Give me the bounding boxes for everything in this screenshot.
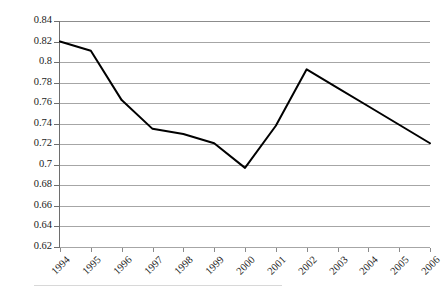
y-tick-label: 0.8 (0, 56, 52, 67)
gridline-y-0.8 (60, 62, 430, 63)
gridline-y-0.84 (60, 21, 430, 22)
scan-artifact-line (34, 285, 282, 286)
plot-area (60, 21, 430, 247)
gridline-y-0.74 (60, 124, 430, 125)
gridline-y-0.78 (60, 83, 430, 84)
x-tick-mark (91, 248, 92, 252)
gridline-y-0.68 (60, 185, 430, 186)
x-tick-mark (153, 248, 154, 252)
x-tick-mark (276, 248, 277, 252)
y-tick-label: 0.74 (0, 118, 52, 129)
gridline-y-0.66 (60, 206, 430, 207)
x-tick-mark (399, 248, 400, 252)
y-tick-label: 0.82 (0, 36, 52, 47)
y-tick-label: 0.68 (0, 179, 52, 190)
y-tick-label: 0.78 (0, 77, 52, 88)
y-tick-label: 0.72 (0, 138, 52, 149)
gridline-y-0.7 (60, 165, 430, 166)
x-tick-mark (122, 248, 123, 252)
x-tick-label: 2001 (259, 254, 288, 283)
x-tick-mark (245, 248, 246, 252)
gridline-y-0.64 (60, 226, 430, 227)
x-tick-mark (307, 248, 308, 252)
x-tick-label: 2003 (320, 254, 349, 283)
y-tick-label: 0.62 (0, 241, 52, 252)
gridline-y-0.76 (60, 103, 430, 104)
y-tick-label: 0.64 (0, 220, 52, 231)
y-tick-label: 0.7 (0, 159, 52, 170)
line-chart: 0.840.820.80.780.760.740.720.70.680.660.… (0, 0, 441, 291)
x-tick-mark (338, 248, 339, 252)
y-tick-label: 0.66 (0, 200, 52, 211)
x-tick-mark (183, 248, 184, 252)
x-tick-mark (60, 248, 61, 252)
x-tick-label: 2006 (413, 254, 441, 283)
x-tick-label: 2005 (382, 254, 411, 283)
gridline-y-0.72 (60, 144, 430, 145)
x-tick-label: 1994 (43, 254, 72, 283)
y-tick-label: 0.84 (0, 15, 52, 26)
x-tick-label: 2004 (351, 254, 380, 283)
x-tick-label: 1995 (74, 254, 103, 283)
x-tick-label: 1998 (166, 254, 195, 283)
x-tick-label: 2002 (289, 254, 318, 283)
x-tick-label: 1999 (197, 254, 226, 283)
gridline-y-0.82 (60, 42, 430, 43)
x-tick-mark (430, 248, 431, 252)
x-tick-label: 1997 (135, 254, 164, 283)
x-tick-label: 2000 (228, 254, 257, 283)
x-tick-mark (368, 248, 369, 252)
x-tick-label: 1996 (104, 254, 133, 283)
y-tick-label: 0.76 (0, 97, 52, 108)
x-tick-mark (214, 248, 215, 252)
